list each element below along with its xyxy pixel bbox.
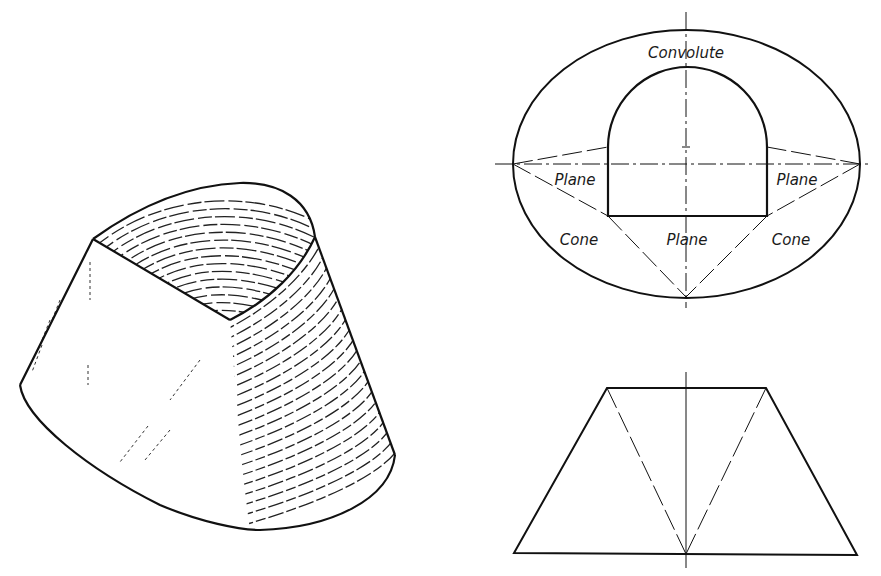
left-edge-hatching [32,262,200,462]
top-opening-outline [608,67,767,216]
label-convolute: Convolute [648,44,724,62]
top-arc-edge [93,183,315,239]
label-cone-left: Cone [560,231,598,249]
label-cone-right: Cone [772,231,810,249]
cone-surface-hatching [225,245,400,530]
base-curve-edge [20,385,395,530]
left-slant-edge [20,239,93,385]
label-plane-bottom: Plane [666,231,707,249]
top-view: Convolute Plane Plane Plane Cone Cone [495,12,870,308]
pictorial-view [20,183,400,530]
label-plane-left: Plane [554,171,595,189]
drawing-canvas: Convolute Plane Plane Plane Cone Cone [0,0,881,576]
label-plane-right: Plane [776,171,817,189]
front-view [514,372,857,568]
solid-outline [20,183,395,530]
